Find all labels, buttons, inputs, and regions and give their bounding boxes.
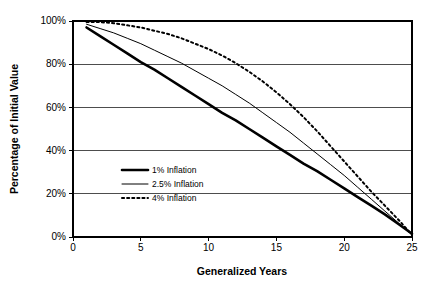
y-tick-label: 80%: [46, 58, 66, 69]
y-tick-label: 0%: [52, 231, 67, 242]
x-axis: 0510152025: [70, 237, 418, 253]
legend-label-0: 1% Inflation: [152, 165, 197, 175]
y-axis: 0%20%40%60%80%100%: [40, 15, 73, 242]
legend-label-1: 2.5% Inflation: [152, 179, 204, 189]
y-axis-title: Percentage of Initial Value: [8, 64, 20, 194]
x-axis-title: Generalized Years: [197, 265, 287, 277]
x-tick-label: 20: [339, 242, 351, 253]
x-tick-label: 25: [406, 242, 418, 253]
chart-canvas: 0%20%40%60%80%100% 0510152025 1% Inflati…: [0, 0, 429, 292]
x-tick-label: 15: [271, 242, 283, 253]
legend-label-2: 4% Inflation: [152, 193, 197, 203]
chart-legend: 1% Inflation2.5% Inflation4% Inflation: [122, 165, 204, 203]
x-tick-label: 5: [138, 242, 144, 253]
y-tick-label: 40%: [46, 145, 66, 156]
x-tick-label: 10: [203, 242, 215, 253]
chart-figure: 0%20%40%60%80%100% 0510152025 1% Inflati…: [0, 0, 429, 292]
y-tick-label: 100%: [40, 15, 66, 26]
y-tick-label: 60%: [46, 102, 66, 113]
plot-background: [73, 21, 412, 237]
x-tick-label: 0: [70, 242, 76, 253]
y-tick-label: 20%: [46, 188, 66, 199]
